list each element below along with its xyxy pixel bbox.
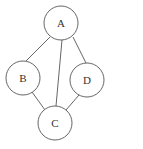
node-b: B <box>6 61 40 95</box>
edge-b-c <box>32 92 45 110</box>
node-label-b: B <box>19 72 26 84</box>
edge-d-c <box>66 95 79 110</box>
node-label-c: C <box>51 117 58 129</box>
edge-a-b <box>26 37 50 61</box>
edge-a-d <box>73 37 86 63</box>
node-a: A <box>44 6 78 40</box>
node-label-a: A <box>57 17 65 29</box>
node-d: D <box>70 63 104 97</box>
edge-a-c <box>56 40 62 106</box>
node-c: C <box>38 106 72 140</box>
graph-diagram: A B D C <box>0 0 143 149</box>
node-label-d: D <box>83 74 91 86</box>
